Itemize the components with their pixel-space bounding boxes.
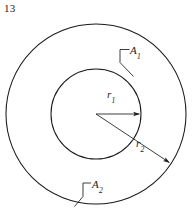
annulus-figure: 13 A1 A2 r1 r2 bbox=[0, 0, 192, 213]
label-radius-outer: r2 bbox=[136, 138, 144, 149]
label-radius-inner-sub: 1 bbox=[111, 96, 115, 105]
label-area-inner-base: A bbox=[130, 44, 137, 56]
label-area-inner-sub: 1 bbox=[137, 52, 141, 61]
label-area-outer-sub: 2 bbox=[99, 186, 103, 195]
label-area-inner: A1 bbox=[130, 45, 141, 56]
outer-radius-arrow bbox=[96, 114, 169, 163]
label-radius-inner: r1 bbox=[107, 89, 115, 100]
label-area-outer: A2 bbox=[92, 179, 103, 190]
label-area-outer-base: A bbox=[92, 178, 99, 190]
label-radius-outer-sub: 2 bbox=[140, 145, 144, 154]
